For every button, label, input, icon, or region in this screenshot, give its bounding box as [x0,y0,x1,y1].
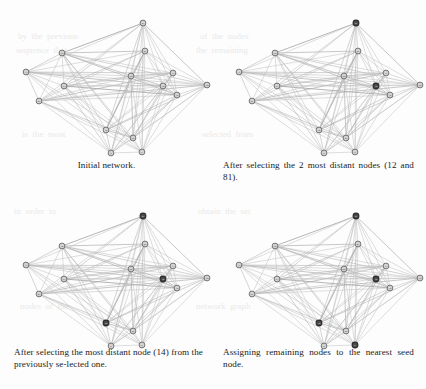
graph-edge [26,265,39,294]
figure-panel-third-most-distant: 8155473329176312743841142669 After selec… [0,195,213,389]
graph-edge [173,266,177,288]
graph-edge [319,323,355,345]
graph-edge [26,53,62,72]
graph-edge [386,266,390,288]
network-graph-three-seeds: 8155473329176312743841142669 [0,195,213,353]
figure-caption-initial-network: Initial network. [0,160,213,172]
graph-edges [239,216,420,346]
graph-edge [252,101,324,153]
graph-edge [239,246,275,265]
graph-edge [239,265,420,278]
graph-edge [252,294,346,331]
graph-edge [143,216,145,244]
graph-edge [39,294,106,323]
graph-edge [26,72,207,85]
figure-caption-assign-remaining: Assigning remaining nodes to the nearest… [223,347,414,370]
graph-edge [252,101,319,130]
graph-edge [319,130,355,152]
graph-edge [39,294,111,346]
network-graph-svg: 8155473329176312743841142669 [0,0,213,160]
graph-edge [356,216,358,244]
graph-edge [62,53,64,86]
graph-edge [275,246,277,279]
graph-nodes: 8155473329176312743841142669 [236,213,423,349]
graph-edge [145,244,207,278]
graph-edge [386,73,390,95]
graph-edge [319,323,346,331]
graph-edge [252,294,324,346]
figure-caption-two-most-distant: After selecting the 2 most distant nodes… [223,160,414,183]
graph-edge [346,279,376,331]
graph-edge [106,323,142,345]
graph-edge [275,23,356,53]
graph-edge [239,72,420,85]
graph-nodes: 8155473329176312743841142669 [23,20,210,156]
graph-edge [358,244,386,266]
figure-caption-third-most-distant: After selecting the most distant node (1… [14,347,203,370]
figure-panel-grid: 8155473329176312743841142669 Initial net… [0,0,426,389]
figure-panel-two-most-distant: 8155473329176312743841142669 After selec… [213,0,426,195]
graph-edge [358,51,386,73]
graph-edge [39,101,133,138]
graph-edge [358,51,420,85]
graph-nodes: 8155473329176312743841142669 [236,20,423,156]
network-graph-assigned: 8155473329176312743841142669 [213,195,426,353]
graph-edge [26,265,207,278]
graph-edges [26,23,207,153]
graph-edge [39,101,111,153]
graph-edge [133,86,163,138]
graph-edge [358,244,420,278]
graph-edge [62,216,143,246]
graph-edge [145,51,207,85]
graph-edge [106,130,133,138]
graph-edge [346,86,376,138]
graph-edge [133,279,163,331]
graph-edge [145,51,173,73]
graph-edge [275,53,277,86]
figure-panel-initial-network: 8155473329176312743841142669 Initial net… [0,0,213,195]
graph-edge [26,72,39,101]
graph-edge [252,101,346,138]
graph-edge [39,294,133,331]
graph-edge [145,244,173,266]
graph-edges [239,23,420,153]
graph-edge [173,73,177,95]
graph-edges [26,216,207,346]
graph-nodes: 8155473329176312743841142669 [23,213,210,349]
graph-edge [62,246,64,279]
graph-edge [26,246,62,265]
graph-edge [111,345,142,346]
graph-edge [106,323,133,331]
network-graph-svg: 8155473329176312743841142669 [213,0,426,160]
graph-edge [239,265,252,294]
graph-edge [239,72,252,101]
network-graph-svg: 8155473329176312743841142669 [213,195,426,353]
graph-edge [275,216,356,246]
graph-edge [319,130,346,138]
graph-edge [252,294,319,323]
graph-edge [143,23,145,51]
graph-edge [106,130,142,152]
graph-edge [62,23,143,53]
graph-edge [111,152,142,153]
graph-edge [239,53,275,72]
graph-edge [324,345,355,346]
figure-panel-assign-remaining: 8155473329176312743841142669 Assigning r… [213,195,426,389]
graph-edge [39,101,106,130]
graph-edge [356,23,358,51]
network-graph-svg: 8155473329176312743841142669 [0,195,213,353]
graph-edge [324,152,355,153]
network-graph-initial: 8155473329176312743841142669 [0,0,213,160]
network-graph-two-seeds: 8155473329176312743841142669 [213,0,426,160]
